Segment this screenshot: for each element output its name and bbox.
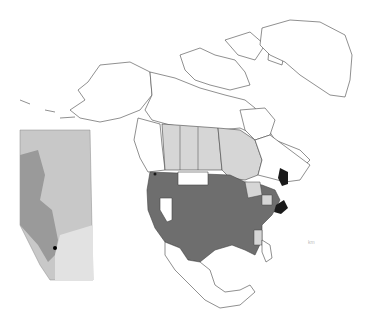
bc-coast-point <box>154 173 157 176</box>
alaska <box>70 62 152 122</box>
aleutian-islands <box>20 100 75 118</box>
distribution-map: km <box>0 0 370 317</box>
mississippi <box>254 230 262 245</box>
florida <box>262 240 272 262</box>
inset-locality-marker <box>53 246 57 250</box>
prairie-provinces <box>162 124 222 170</box>
alberta-inset <box>20 130 93 280</box>
map-canvas <box>0 0 370 317</box>
scale-bar-label: km <box>308 239 315 245</box>
british-columbia <box>134 118 165 172</box>
ohio <box>262 195 272 205</box>
michigan <box>245 182 262 198</box>
montana <box>178 172 208 185</box>
